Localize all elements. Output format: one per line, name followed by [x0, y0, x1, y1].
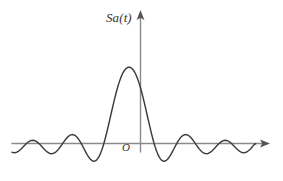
sinc-function-figure: Sa(t) O	[0, 0, 283, 181]
y-axis-label: Sa(t)	[106, 11, 132, 24]
sinc-curve	[12, 67, 256, 161]
origin-label: O	[122, 142, 130, 153]
plot-canvas	[0, 0, 283, 181]
